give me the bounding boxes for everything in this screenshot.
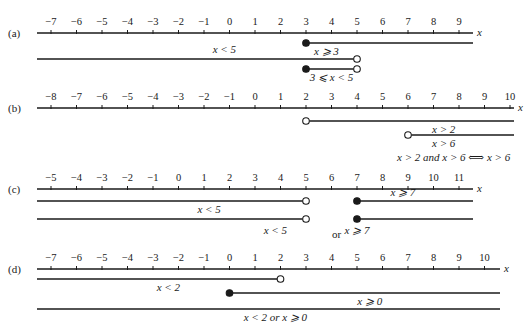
tick-label: −1 bbox=[224, 91, 235, 102]
tick-label: 8 bbox=[456, 91, 461, 102]
open-endpoint-circle bbox=[354, 56, 361, 63]
tick-label: 0 bbox=[227, 252, 232, 263]
tick-label: −1 bbox=[198, 16, 209, 27]
open-endpoint-circle bbox=[303, 118, 310, 125]
inequality-label: x < 2 bbox=[156, 281, 181, 293]
open-endpoint-circle bbox=[303, 216, 310, 223]
tick-label: −2 bbox=[122, 172, 133, 183]
tick-label: 3 bbox=[303, 16, 308, 27]
number-line-panel-a: (a)x−7−6−5−4−3−2−10123456789x ⩾ 3x < 53 … bbox=[8, 16, 482, 83]
tick-label: −3 bbox=[173, 91, 184, 102]
tick-label: −3 bbox=[96, 172, 107, 183]
tick-label: 5 bbox=[354, 252, 359, 263]
inequality-label: x > 2 bbox=[431, 123, 456, 135]
tick-label: 4 bbox=[278, 172, 284, 183]
tick-label: 7 bbox=[431, 91, 436, 102]
tick-label: −8 bbox=[45, 91, 56, 102]
solution-set-ray: x < 5 bbox=[37, 43, 360, 62]
tick-label: −2 bbox=[173, 252, 184, 263]
number-line-panel-c: (c)x−5−4−3−2−101234567891011x < 5x ⩾ 7x … bbox=[8, 172, 482, 240]
tick-label: −4 bbox=[122, 252, 134, 263]
open-endpoint-circle bbox=[405, 132, 412, 139]
solution-set-ray: 3 ⩽ x < 5 bbox=[303, 66, 361, 83]
tick-label: −5 bbox=[122, 91, 133, 102]
tick-label: 1 bbox=[252, 252, 257, 263]
closed-endpoint-dot bbox=[303, 40, 310, 47]
tick-label: 2 bbox=[227, 172, 232, 183]
tick-label: −6 bbox=[71, 16, 82, 27]
tick-label: 4 bbox=[354, 91, 360, 102]
tick-label: 2 bbox=[303, 91, 308, 102]
tick-label: 1 bbox=[201, 172, 206, 183]
tick-label: 3 bbox=[329, 91, 334, 102]
tick-label: 3 bbox=[303, 252, 308, 263]
inequality-label: x ⩾ 0 bbox=[356, 295, 382, 307]
tick-label: −4 bbox=[147, 91, 159, 102]
solution-set-ray: x ⩾ 0 bbox=[226, 290, 500, 307]
tick-label: 1 bbox=[252, 16, 257, 27]
tick-label: −7 bbox=[45, 252, 56, 263]
inequality-label: x > 6 bbox=[431, 137, 456, 149]
solution-set-ray: x ⩾ 7 bbox=[344, 216, 473, 236]
axis-variable-label: x bbox=[476, 26, 482, 38]
tick-label: −3 bbox=[147, 16, 158, 27]
closed-endpoint-dot bbox=[354, 216, 361, 223]
tick-label: 10 bbox=[505, 91, 516, 102]
solution-set-ray: x ⩾ 3 bbox=[303, 40, 473, 57]
solution-set-ray: x < 2 bbox=[37, 276, 284, 293]
number-line-panel-b: (b)x−8−7−6−5−4−3−2−1012345678910x > 2x >… bbox=[8, 91, 523, 163]
tick-label: 5 bbox=[354, 16, 359, 27]
tick-label: 6 bbox=[380, 16, 385, 27]
tick-label: 7 bbox=[354, 172, 359, 183]
tick-label: 0 bbox=[227, 16, 232, 27]
closed-endpoint-dot bbox=[303, 66, 310, 73]
tick-label: −4 bbox=[71, 172, 83, 183]
tick-label: 11 bbox=[454, 172, 464, 183]
tick-label: −1 bbox=[147, 172, 158, 183]
solution-set-ray: x > 6 bbox=[405, 132, 514, 149]
tick-label: −3 bbox=[147, 252, 158, 263]
tick-label: 9 bbox=[482, 91, 487, 102]
tick-label: 6 bbox=[405, 91, 410, 102]
axis-variable-label: x bbox=[517, 101, 523, 113]
tick-label: 0 bbox=[176, 172, 181, 183]
open-endpoint-circle bbox=[277, 276, 284, 283]
inequality-label: x < 5 bbox=[263, 224, 288, 236]
tick-label: 1 bbox=[278, 91, 283, 102]
panel-label: (a) bbox=[8, 27, 21, 40]
tick-label: −4 bbox=[122, 16, 134, 27]
tick-label: 7 bbox=[405, 16, 410, 27]
tick-label: 4 bbox=[329, 252, 335, 263]
open-endpoint-circle bbox=[354, 66, 361, 73]
tick-label: 2 bbox=[278, 252, 283, 263]
tick-label: −2 bbox=[198, 91, 209, 102]
tick-label: 8 bbox=[431, 252, 436, 263]
tick-label: −6 bbox=[96, 91, 107, 102]
tick-label: 10 bbox=[479, 252, 490, 263]
tick-label: −5 bbox=[96, 16, 107, 27]
tick-label: 2 bbox=[278, 16, 283, 27]
tick-label: 9 bbox=[456, 16, 461, 27]
panel-label: (c) bbox=[8, 183, 21, 196]
tick-label: −6 bbox=[71, 252, 82, 263]
tick-label: 10 bbox=[428, 172, 439, 183]
tick-label: −7 bbox=[45, 16, 56, 27]
tick-label: −7 bbox=[71, 91, 82, 102]
closed-endpoint-dot bbox=[354, 198, 361, 205]
tick-label: 6 bbox=[380, 252, 385, 263]
inequality-label: x ⩾ 3 bbox=[313, 45, 339, 57]
tick-label: −2 bbox=[173, 16, 184, 27]
or-connector-label: or bbox=[332, 228, 342, 240]
tick-label: 9 bbox=[456, 252, 461, 263]
axis-variable-label: x bbox=[476, 182, 482, 194]
tick-label: 9 bbox=[405, 172, 410, 183]
tick-label: 6 bbox=[329, 172, 334, 183]
inequality-label: x < 2 or x ⩾ 0 bbox=[243, 311, 308, 323]
tick-label: 3 bbox=[252, 172, 257, 183]
inequality-number-lines-figure: (a)x−7−6−5−4−3−2−10123456789x ⩾ 3x < 53 … bbox=[0, 0, 529, 333]
axis-variable-label: x bbox=[503, 262, 509, 274]
inequality-label: x ⩾ 7 bbox=[389, 186, 415, 198]
inequality-label: 3 ⩽ x < 5 bbox=[309, 71, 354, 83]
tick-label: 5 bbox=[303, 172, 308, 183]
tick-label: −1 bbox=[198, 252, 209, 263]
